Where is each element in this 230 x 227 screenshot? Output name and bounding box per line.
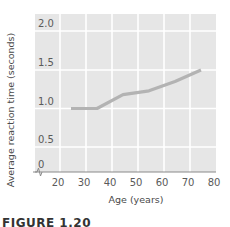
- y-axis-label: Average reaction time (seconds): [5, 33, 16, 188]
- x-tick-label: 20: [52, 177, 65, 188]
- x-axis-label: Age (years): [109, 194, 164, 205]
- figure-caption: FIGURE 1.20: [2, 216, 91, 227]
- y-tick-label: 2.0: [38, 18, 54, 29]
- reaction-time-chart: 00.51.01.52.0 20304050607080 Age (years)…: [0, 0, 230, 227]
- x-tick-label: 30: [78, 177, 91, 188]
- x-axis-ticks: 20304050607080: [52, 177, 221, 188]
- x-tick-label: 70: [182, 177, 195, 188]
- x-tick-label: 40: [104, 177, 117, 188]
- x-tick-label: 60: [156, 177, 169, 188]
- y-tick-label: 1.0: [38, 96, 54, 107]
- x-tick-label: 80: [208, 177, 221, 188]
- y-tick-label: 0.5: [38, 134, 54, 145]
- y-tick-label: 1.5: [38, 57, 54, 68]
- x-tick-label: 50: [130, 177, 143, 188]
